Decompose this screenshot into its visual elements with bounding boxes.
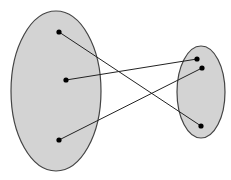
codomain-point [194, 56, 199, 61]
domain-point [56, 137, 61, 142]
domain-point [56, 29, 61, 34]
codomain-point [198, 123, 203, 128]
codomain-point [199, 65, 204, 70]
domain-point [63, 77, 68, 82]
mapping-diagram [0, 0, 231, 180]
domain-set-ellipse [11, 11, 101, 171]
